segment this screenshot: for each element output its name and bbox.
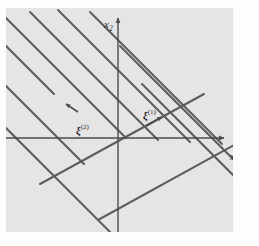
trajectory-line bbox=[30, 12, 158, 140]
xi-2-label: ξ(2) bbox=[76, 124, 89, 136]
plot-panel: x2 x1 ξ(1) ξ(2) bbox=[6, 8, 233, 232]
trajectory-line bbox=[6, 16, 126, 138]
trajectory-line bbox=[40, 94, 204, 184]
xi-1-label: ξ(1) bbox=[143, 109, 156, 121]
trajectory-family-positive-slope bbox=[40, 94, 233, 220]
trajectory-line bbox=[142, 84, 233, 180]
xi-2-arrow-icon bbox=[66, 104, 78, 112]
x2-axis-label: x2 bbox=[104, 19, 113, 33]
trajectory-line bbox=[58, 10, 190, 142]
x1-axis-label: x1 bbox=[230, 151, 233, 165]
trajectory-family-negative-slope bbox=[6, 10, 233, 232]
trajectory-line bbox=[6, 68, 84, 164]
trajectory-line bbox=[6, 28, 54, 94]
trajectory-line bbox=[120, 46, 233, 160]
trajectory-line bbox=[6, 110, 114, 232]
plot-canvas bbox=[6, 8, 233, 232]
figure-root: x2 x1 ξ(1) ξ(2) bbox=[0, 0, 259, 246]
